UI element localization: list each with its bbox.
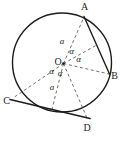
angle-alpha-EOD: α: [58, 68, 63, 78]
center-dot-O: [62, 62, 65, 65]
circle-outline: [13, 13, 112, 112]
label-B: B: [111, 70, 118, 81]
radius-length-a-bottom: a: [50, 82, 55, 92]
label-O: O: [54, 56, 61, 67]
angle-alpha-MOB: α: [76, 54, 81, 64]
radius-length-a-top: a: [60, 36, 65, 46]
label-A: A: [81, 1, 89, 12]
diagram-svg: OABCDaaαααα: [0, 0, 129, 145]
radius-OA-dashed: [64, 17, 85, 64]
chord-AB: [84, 17, 110, 75]
label-C: C: [3, 95, 10, 106]
angle-alpha-COE: α: [49, 66, 54, 76]
radius-OB-dashed: [64, 64, 110, 75]
angle-alpha-AOM: α: [69, 46, 74, 56]
label-D: D: [83, 122, 90, 133]
geometry-figure: OABCDaaαααα: [0, 0, 129, 145]
